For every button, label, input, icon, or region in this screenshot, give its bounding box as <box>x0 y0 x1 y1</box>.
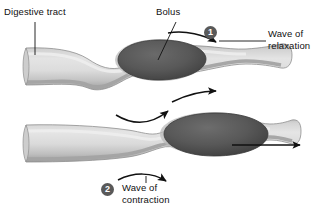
panel-top <box>23 22 292 102</box>
bolus-bottom <box>164 113 268 156</box>
tube-top-left-opening <box>23 48 29 85</box>
label-wave-of-contraction-line2: contraction <box>122 194 170 206</box>
label-wave-of-contraction: Wave of contraction <box>122 182 170 205</box>
label-wave-of-contraction-line1: Wave of <box>122 182 170 194</box>
panel-bottom <box>23 111 301 183</box>
label-wave-of-relaxation-line2: relaxation <box>268 40 310 52</box>
label-digestive-tract: Digestive tract <box>4 6 66 18</box>
tube-bottom-left-opening <box>23 125 29 162</box>
arrow-top-under <box>172 91 216 102</box>
marker-1: 1 <box>204 26 217 39</box>
arrow-bottom-over <box>116 111 168 122</box>
peristalsis-diagram: Digestive tract Bolus Wave of relaxation… <box>0 0 319 209</box>
arrow-contraction <box>118 174 166 181</box>
marker-2: 2 <box>101 183 114 196</box>
label-bolus: Bolus <box>156 6 180 18</box>
label-wave-of-relaxation-line1: Wave of <box>268 28 310 40</box>
label-wave-of-relaxation: Wave of relaxation <box>268 28 310 51</box>
